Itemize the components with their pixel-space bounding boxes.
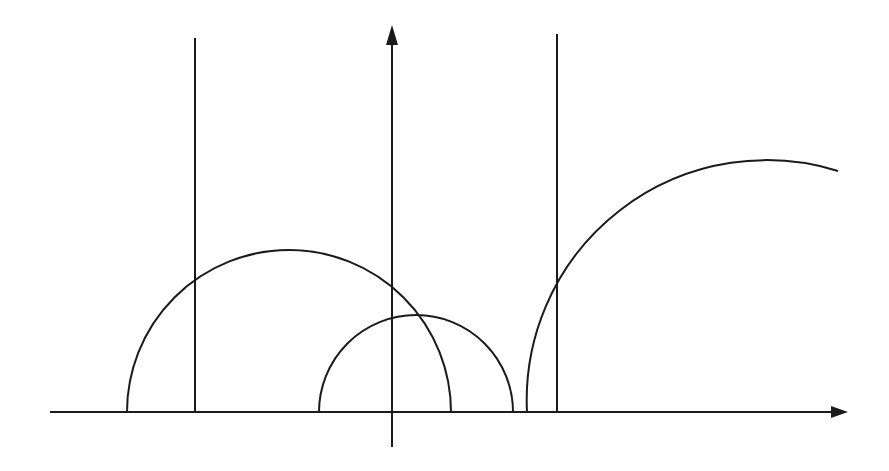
semicircle-diagram <box>0 0 889 471</box>
y-axis-arrow-icon <box>386 25 398 45</box>
vertical-lines <box>195 34 557 412</box>
large-semicircle <box>127 250 451 412</box>
small-semicircle <box>319 315 513 412</box>
right-partial-arc <box>527 160 838 412</box>
diagram-canvas <box>0 0 889 471</box>
arcs <box>127 160 838 412</box>
x-axis-arrow-icon <box>831 406 848 418</box>
